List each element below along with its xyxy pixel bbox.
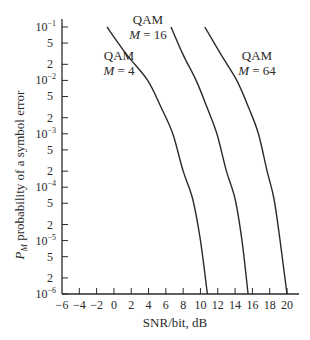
y-tick-label: 10−4: [35, 179, 56, 194]
curve-label-order: M = 16: [128, 27, 167, 42]
x-axis-label: SNR/bit, dB: [143, 315, 208, 330]
y-minor-tick-label: 2: [47, 218, 53, 232]
y-tick-label: 10−1: [35, 19, 56, 34]
y-tick-label: 10−5: [35, 233, 56, 248]
x-tick-label: 14: [229, 298, 241, 312]
x-tick-label: 4: [146, 298, 152, 312]
x-tick-label: −2: [90, 298, 103, 312]
y-axis-label: PM probability of a symbol error: [12, 90, 29, 261]
curve-label-title: QAM: [104, 48, 135, 63]
y-axis-label-text: probability of a symbol error: [12, 90, 27, 244]
x-tick-label: 6: [163, 298, 169, 312]
y-minor-tick-label: 5: [47, 36, 53, 50]
x-tick-label: 10: [194, 298, 206, 312]
y-minor-tick-label: 5: [47, 196, 53, 210]
x-axis-ticks: −6−4−202468101214161820: [56, 288, 293, 312]
y-axis-ticks: 10−110−210−310−410−510−65252525252: [35, 19, 68, 301]
x-tick-label: 8: [180, 298, 186, 312]
ser-vs-snr-chart: 10−110−210−310−410−510−65252525252 −6−4−…: [0, 0, 310, 340]
x-tick-label: 12: [212, 298, 224, 312]
y-minor-tick-label: 5: [47, 89, 53, 103]
y-minor-tick-label: 5: [47, 143, 53, 157]
curve-label-order: M = 4: [102, 63, 135, 78]
x-tick-label: 2: [128, 298, 134, 312]
y-minor-tick-label: 2: [47, 164, 53, 178]
x-tick-label: 16: [246, 298, 258, 312]
curve-label-order: M = 64: [237, 63, 276, 78]
x-tick-label: 20: [281, 298, 293, 312]
y-axis-label-symbol: P: [12, 251, 27, 260]
y-minor-tick-label: 5: [47, 250, 53, 264]
y-minor-tick-label: 2: [47, 271, 53, 285]
curve-qam-16: [171, 27, 248, 294]
x-tick-label: −6: [56, 298, 69, 312]
y-tick-label: 10−3: [35, 126, 56, 141]
curve-label-title: QAM: [242, 48, 273, 63]
x-tick-label: −4: [73, 298, 86, 312]
curve-label-title: QAM: [133, 12, 164, 27]
y-tick-label: 10−2: [35, 72, 56, 87]
y-minor-tick-label: 2: [47, 57, 53, 71]
x-tick-label: 18: [264, 298, 276, 312]
x-tick-label: 0: [111, 298, 117, 312]
y-tick-label: 10−6: [35, 286, 56, 301]
y-minor-tick-label: 2: [47, 111, 53, 125]
